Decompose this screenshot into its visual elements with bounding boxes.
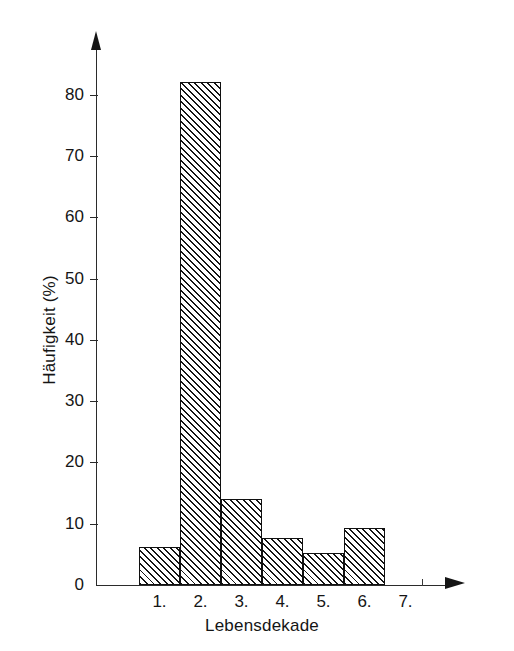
bar [139,547,180,585]
x-tick-label: 2. [180,593,222,610]
bar [180,82,221,585]
x-axis-arrow-icon [445,577,465,589]
histogram-chart: Häufigkeit (%) Lebensdekade 010203040506… [0,0,514,651]
y-tick-mark [90,401,98,402]
y-tick-label: 80 [40,86,84,103]
y-tick-mark [90,524,98,525]
bar [344,528,385,585]
y-tick-label: 10 [40,515,84,532]
bar [221,499,262,585]
y-tick-mark [90,462,98,463]
y-tick-label: 20 [40,453,84,470]
y-tick-mark [90,279,98,280]
bar [303,553,344,585]
bar [262,538,303,585]
y-tick-label: 40 [40,331,84,348]
y-tick-mark [90,95,98,96]
x-tick-label: 1. [139,593,181,610]
x-tick-label: 4. [262,593,304,610]
y-axis-line [96,46,97,586]
y-tick-mark [90,217,98,218]
y-tick-label: 50 [40,270,84,287]
y-tick-mark [90,340,98,341]
x-tick-label: 5. [303,593,345,610]
y-tick-label: 70 [40,147,84,164]
x-axis-end-tick-mark [422,579,423,586]
x-tick-label: 3. [221,593,263,610]
y-tick-label: 30 [40,392,84,409]
y-tick-mark [90,156,98,157]
x-tick-label: 6. [344,593,386,610]
y-tick-label: 0 [40,576,84,593]
x-axis-line [96,585,451,586]
x-tick-label: 7. [385,593,427,610]
y-tick-label: 60 [40,208,84,225]
x-axis-title: Lebensdekade [97,616,427,636]
y-axis-arrow-icon [91,31,101,50]
